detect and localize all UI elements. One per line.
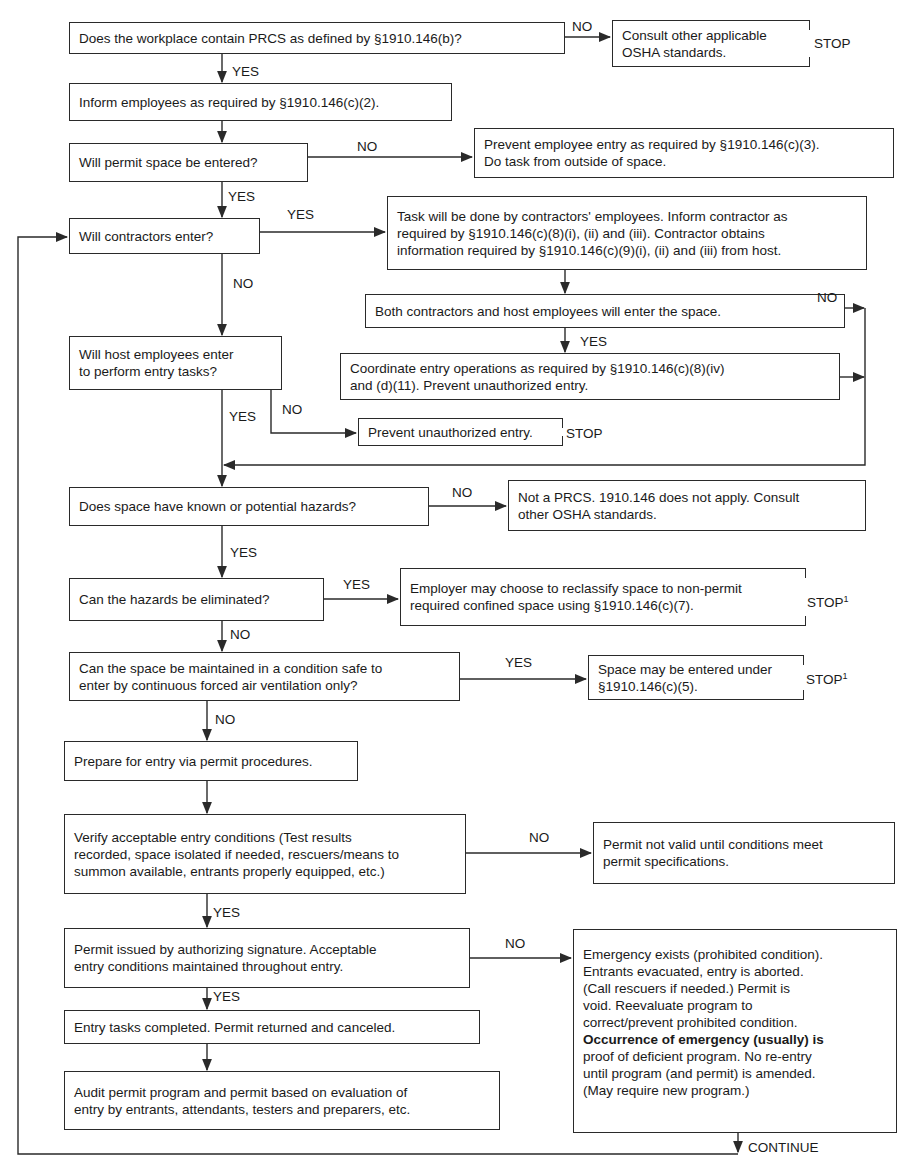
node-prevent-unauthorized: Prevent unauthorized entry.	[358, 418, 563, 446]
node-contractors-enter: Will contractors enter?	[69, 218, 260, 254]
stop-terminal: STOP	[566, 426, 603, 441]
node-hazards-eliminated: Can the hazards be eliminated?	[69, 578, 324, 621]
footnote-marker: 1	[844, 594, 849, 604]
edge-label-yes: YES	[230, 545, 257, 560]
node-consult-osha: Consult other applicable OSHA standards.	[612, 20, 810, 67]
edge-label-yes: YES	[228, 189, 255, 204]
edge-label-no: NO	[505, 936, 525, 951]
node-enter-under-c5: Space may be entered under §1910.146(c)(…	[588, 655, 804, 700]
node-prepare-entry: Prepare for entry via permit procedures.	[64, 741, 358, 781]
node-both-enter: Both contractors and host employees will…	[365, 294, 845, 328]
edge-label-no: NO	[357, 139, 377, 154]
node-prevent-employee-entry: Prevent employee entry as required by §1…	[474, 128, 894, 178]
node-verify-conditions: Verify acceptable entry conditions (Test…	[64, 814, 466, 894]
stop-terminal: STOP1	[807, 595, 849, 610]
edge-label-yes: YES	[580, 334, 607, 349]
edge-label-no: NO	[452, 485, 472, 500]
emergency-text-a: Emergency exists (prohibited condition).…	[583, 946, 823, 1031]
node-not-prcs: Not a PRCS. 1910.146 does not apply. Con…	[508, 480, 866, 531]
edge-label-no: NO	[230, 627, 250, 642]
edge-label-no: NO	[215, 712, 235, 727]
node-coordinate-entry: Coordinate entry operations as required …	[340, 353, 840, 400]
node-audit-program: Audit permit program and permit based on…	[64, 1071, 500, 1130]
edge-label-yes: YES	[229, 409, 256, 424]
node-contractor-tasks: Task will be done by contractors' employ…	[387, 196, 867, 270]
edge-label-yes: YES	[343, 577, 370, 592]
edge-label-yes: YES	[232, 64, 259, 79]
stop-terminal: STOP	[814, 36, 851, 51]
flowchart-canvas: Does the workplace contain PRCS as defin…	[0, 0, 913, 1168]
stop-terminal: STOP1	[806, 672, 848, 687]
node-emergency-exists: Emergency exists (prohibited condition).…	[573, 929, 897, 1133]
edge-label-continue: CONTINUE	[748, 1140, 819, 1155]
edge-label-yes: YES	[213, 989, 240, 1004]
edge-label-no: NO	[817, 290, 837, 305]
node-host-employees-enter: Will host employees enter to perform ent…	[69, 336, 282, 390]
edge-label-no: NO	[233, 276, 253, 291]
node-entry-tasks-completed: Entry tasks completed. Permit returned a…	[64, 1010, 480, 1044]
edge-label-no: NO	[282, 402, 302, 417]
node-inform-employees: Inform employees as required by §1910.14…	[69, 83, 452, 121]
node-known-hazards: Does space have known or potential hazar…	[69, 487, 429, 526]
node-permit-not-valid: Permit not valid until conditions meet p…	[593, 822, 895, 884]
edge-label-no: NO	[529, 830, 549, 845]
edge-label-no: NO	[572, 19, 592, 34]
emergency-text-b: Occurrence of emergency (usually) is	[583, 1031, 824, 1048]
node-ventilation-only: Can the space be maintained in a conditi…	[69, 652, 460, 701]
node-contains-prcs: Does the workplace contain PRCS as defin…	[69, 22, 565, 54]
edge-label-yes: YES	[505, 655, 532, 670]
node-reclassify-space: Employer may choose to reclassify space …	[400, 568, 806, 626]
node-permit-issued: Permit issued by authorizing signature. …	[64, 928, 470, 988]
node-permit-space-entered: Will permit space be entered?	[69, 143, 308, 182]
edge-label-yes: YES	[213, 905, 240, 920]
edge-label-yes: YES	[287, 207, 314, 222]
emergency-text-c: proof of deficient program. No re-entry …	[583, 1048, 816, 1099]
footnote-marker: 1	[843, 671, 848, 681]
